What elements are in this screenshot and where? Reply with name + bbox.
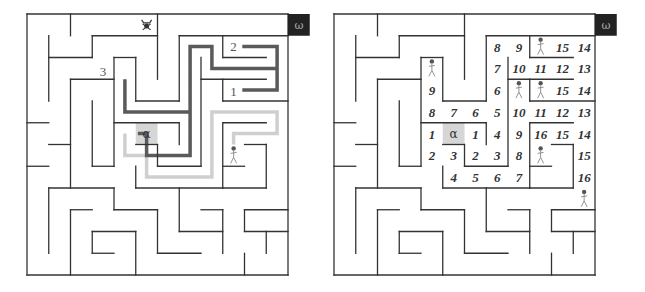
- step-count: 16: [578, 170, 592, 185]
- step-count: 9: [429, 83, 436, 98]
- step-count: 5: [472, 170, 479, 185]
- step-count: 15: [556, 127, 570, 142]
- step-count: 2: [428, 148, 436, 163]
- start-label: α: [450, 127, 458, 141]
- step-count: 8: [494, 40, 501, 55]
- step-count: 7: [494, 61, 501, 76]
- figure-head: [430, 59, 434, 63]
- step-count: 13: [578, 105, 592, 120]
- figure-body: [429, 63, 435, 76]
- skull-crossbones-icon: [142, 20, 152, 30]
- stick-figure-icon: [429, 59, 435, 76]
- step-count: 11: [534, 105, 546, 120]
- step-count: 13: [578, 61, 592, 76]
- step-count: 3: [449, 148, 457, 163]
- figure-body: [538, 150, 544, 163]
- step-count: 4: [493, 127, 501, 142]
- stick-figure-icon: [516, 81, 522, 98]
- figure-head: [538, 37, 542, 41]
- figure-body: [538, 85, 544, 98]
- step-count: 2: [471, 148, 479, 163]
- step-count: 1: [429, 127, 436, 142]
- step-count: 3: [493, 148, 501, 163]
- figure-body: [538, 42, 544, 55]
- step-count: 4: [449, 170, 457, 185]
- left-maze-panel: ωα321: [27, 14, 310, 275]
- step-count: 7: [450, 105, 457, 120]
- figure-body: [581, 194, 587, 207]
- step-count: 8: [516, 148, 523, 163]
- goal-label: ω: [601, 19, 610, 32]
- figure-head: [582, 190, 586, 194]
- start-label: α: [143, 127, 151, 141]
- figure-head: [231, 146, 235, 150]
- step-count: 14: [578, 83, 592, 98]
- stick-figure-icon: [581, 190, 587, 207]
- step-count: 12: [556, 61, 570, 76]
- step-count: 15: [556, 83, 570, 98]
- step-count: 6: [494, 83, 501, 98]
- stick-figure-icon: [538, 37, 544, 54]
- path-label: 2: [230, 39, 237, 54]
- step-count: 16: [534, 127, 548, 142]
- step-count: 7: [516, 170, 523, 185]
- step-count: 9: [516, 127, 523, 142]
- figure-head: [517, 81, 521, 85]
- step-count: 10: [512, 105, 526, 120]
- path-label: 1: [230, 84, 237, 99]
- step-count: 1: [472, 127, 479, 142]
- stick-figure-icon: [231, 146, 237, 163]
- path-label: 3: [100, 64, 107, 79]
- step-count: 8: [429, 105, 436, 120]
- right-maze-panel: ωα89151471011121396151487651011121311491…: [334, 14, 617, 275]
- figure-head: [538, 146, 542, 150]
- step-count: 6: [472, 105, 479, 120]
- skull: [144, 23, 149, 28]
- step-count: 11: [534, 61, 546, 76]
- step-count: 6: [494, 170, 501, 185]
- goal-label: ω: [294, 19, 303, 32]
- maze-figure: ωα321 ωα89151471011121396151487651011121…: [0, 0, 645, 292]
- step-count: 14: [578, 127, 592, 142]
- step-count: 9: [516, 40, 523, 55]
- figure-body: [516, 85, 522, 98]
- step-count: 10: [512, 61, 526, 76]
- stick-figure-icon: [538, 146, 544, 163]
- stick-figure-icon: [538, 81, 544, 98]
- step-count: 12: [556, 105, 570, 120]
- step-count: 14: [578, 40, 592, 55]
- step-count: 15: [556, 40, 570, 55]
- figure-body: [231, 150, 237, 163]
- step-count: 5: [494, 105, 501, 120]
- figure-head: [538, 81, 542, 85]
- step-count: 15: [578, 148, 592, 163]
